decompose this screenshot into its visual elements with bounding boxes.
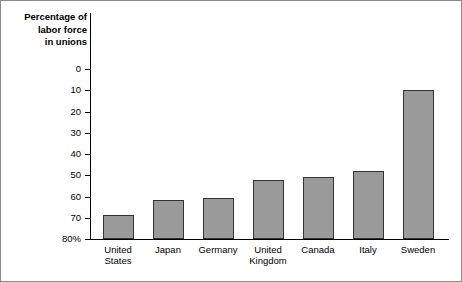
bar: [103, 215, 134, 239]
y-axis-tick-label: 70: [43, 213, 81, 223]
plot-area: 80%706050403020100 UnitedStatesJapanGerm…: [1, 1, 462, 282]
bar: [153, 200, 184, 239]
y-axis-tick: [85, 112, 90, 113]
x-axis-category-label-line: Canada: [293, 244, 343, 255]
y-axis-tick-label: 20: [43, 107, 81, 117]
y-axis-tick: [85, 175, 90, 176]
y-axis-tick-label-text: 30: [43, 128, 81, 138]
y-axis-tick: [85, 69, 90, 70]
bar: [403, 90, 434, 239]
y-axis-tick: [85, 197, 90, 198]
y-axis-tick-label-text: 40: [43, 149, 81, 159]
x-axis-category-label: Italy: [343, 244, 393, 255]
y-axis-tick-label-text: 80%: [43, 234, 81, 244]
x-axis-category-label-line: United: [243, 244, 293, 255]
x-axis-category-label: UnitedKingdom: [243, 244, 293, 266]
x-axis-category-label: Germany: [193, 244, 243, 255]
x-axis-category-label-line: Germany: [193, 244, 243, 255]
y-axis-tick-label: 30: [43, 128, 81, 138]
y-axis-tick-label: 10: [43, 85, 81, 95]
y-axis-tick-label: 60: [43, 192, 81, 202]
x-axis-category-label-line: Kingdom: [243, 255, 293, 266]
y-axis-tick-label-text: 0: [43, 64, 81, 74]
y-axis-tick-label: 40: [43, 149, 81, 159]
x-axis-category-label: Japan: [143, 244, 193, 255]
y-axis-line: [90, 13, 91, 240]
y-axis-tick-label: 0: [43, 64, 81, 74]
x-axis-category-label: Canada: [293, 244, 343, 255]
x-axis-line: [90, 239, 449, 240]
x-axis-category-label-line: Sweden: [393, 244, 443, 255]
x-axis-category-label-line: Japan: [143, 244, 193, 255]
bar: [253, 180, 284, 240]
x-axis-category-label-line: United: [93, 244, 143, 255]
y-axis-tick-label-text: 60: [43, 192, 81, 202]
y-axis-tick: [85, 218, 90, 219]
chart-page: Percentage of labor force in unions 80%7…: [0, 0, 462, 282]
y-axis-tick-label: 80%: [43, 234, 81, 244]
bar: [353, 171, 384, 239]
x-axis-category-label-line: States: [93, 255, 143, 266]
y-axis-tick: [85, 90, 90, 91]
bar: [303, 177, 334, 239]
bar: [203, 198, 234, 239]
y-axis-tick: [85, 154, 90, 155]
y-axis-tick-label-text: 20: [43, 107, 81, 117]
x-axis-category-label-line: Italy: [343, 244, 393, 255]
y-axis-tick: [85, 239, 90, 240]
y-axis-tick-label-text: 70: [43, 213, 81, 223]
y-axis-tick: [85, 133, 90, 134]
x-axis-category-label: UnitedStates: [93, 244, 143, 266]
y-axis-tick-label: 50: [43, 170, 81, 180]
y-axis-tick-label-text: 50: [43, 170, 81, 180]
x-axis-category-label: Sweden: [393, 244, 443, 255]
y-axis-tick-label-text: 10: [43, 85, 81, 95]
